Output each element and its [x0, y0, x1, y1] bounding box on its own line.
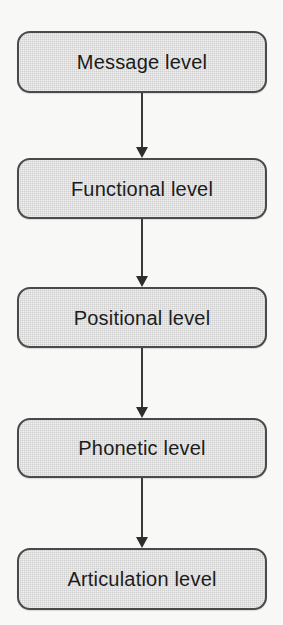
flowchart-node-label: Positional level — [74, 308, 211, 328]
flowchart-node-label: Phonetic level — [78, 438, 205, 458]
flowchart-node-label: Articulation level — [67, 569, 216, 589]
flowchart-diagram: Message level Functional level Positiona… — [0, 0, 283, 625]
arrow-head — [136, 276, 148, 287]
flowchart-node-phonetic[interactable]: Phonetic level — [17, 418, 267, 478]
arrow-shaft — [141, 219, 143, 278]
arrow-shaft — [141, 93, 143, 149]
arrow-shaft — [141, 478, 143, 539]
arrow-down-icon-phonetic-to-articulation — [134, 478, 150, 548]
arrow-down-icon-positional-to-phonetic — [134, 348, 150, 418]
flowchart-node-articulation[interactable]: Articulation level — [17, 548, 267, 610]
arrow-shaft — [141, 348, 143, 409]
flowchart-node-functional[interactable]: Functional level — [17, 158, 267, 219]
arrow-head — [136, 147, 148, 158]
arrow-head — [136, 537, 148, 548]
arrow-head — [136, 407, 148, 418]
arrow-down-icon-functional-to-positional — [134, 219, 150, 287]
flowchart-node-label: Message level — [77, 52, 207, 72]
arrow-down-icon-message-to-functional — [134, 93, 150, 158]
flowchart-node-message[interactable]: Message level — [17, 31, 267, 93]
flowchart-node-positional[interactable]: Positional level — [17, 287, 267, 348]
flowchart-node-label: Functional level — [71, 179, 213, 199]
